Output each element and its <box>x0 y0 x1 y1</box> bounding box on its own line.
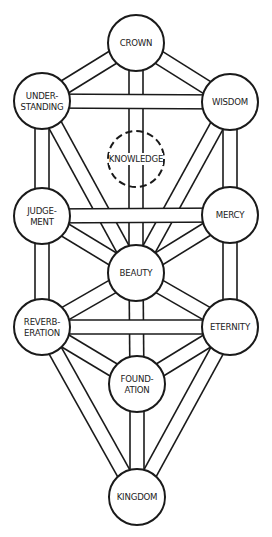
node-label: BEAUTY <box>120 268 154 278</box>
node-reverberation: REVERB-ERATION <box>14 299 70 355</box>
node-label: CROWN <box>120 38 153 48</box>
node-label: ETERNITY <box>210 322 251 332</box>
node-label: MENT <box>30 217 55 227</box>
node-label: ATION <box>124 385 149 395</box>
node-label: REVERB- <box>24 317 60 327</box>
node-label: FOUND- <box>121 374 154 384</box>
node-label: KINGDOM <box>117 492 158 502</box>
node-eternity: ETERNITY <box>202 299 258 355</box>
node-wisdom: WISDOM <box>202 74 258 130</box>
tree-of-life-diagram: CROWNUNDER-STANDINGWISDOMKNOWLEDGEJUDGE-… <box>0 0 272 537</box>
node-understanding: UNDER-STANDING <box>14 73 70 129</box>
node-judgement: JUDGE-MENT <box>14 188 70 244</box>
node-label: WISDOM <box>212 97 248 107</box>
node-label: UNDER- <box>26 91 58 101</box>
node-beauty: BEAUTY <box>108 245 164 301</box>
node-mercy: MERCY <box>202 187 258 243</box>
node-label: STANDING <box>21 102 64 112</box>
node-label: JUDGE- <box>26 206 57 216</box>
node-label: MERCY <box>216 210 245 220</box>
node-crown: CROWN <box>108 15 164 71</box>
node-label: ERATION <box>24 328 60 338</box>
node-label: KNOWLEDGE <box>109 154 163 164</box>
node-kingdom: KINGDOM <box>109 469 165 525</box>
node-foundation: FOUND-ATION <box>109 356 165 412</box>
